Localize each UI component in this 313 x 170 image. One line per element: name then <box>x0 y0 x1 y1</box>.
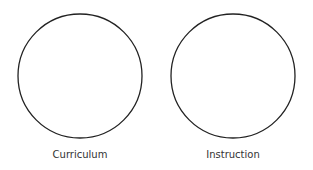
instruction-circle <box>171 14 295 138</box>
diagram: Curriculum Instruction <box>0 0 313 170</box>
circles-canvas <box>0 0 313 170</box>
instruction-label: Instruction <box>206 149 260 160</box>
curriculum-circle <box>18 14 142 138</box>
curriculum-label: Curriculum <box>53 149 108 160</box>
